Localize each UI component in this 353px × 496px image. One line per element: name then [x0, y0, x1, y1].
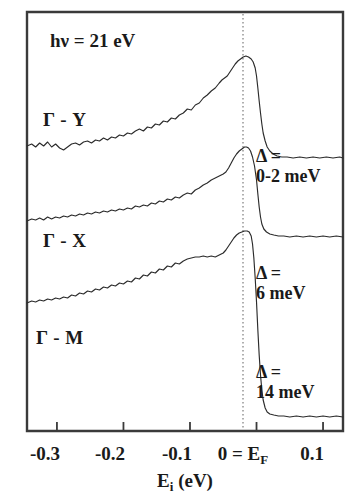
x-axis-title-units: (eV) — [173, 470, 213, 492]
x-tick-label--0.2: -0.2 — [95, 443, 125, 464]
photon-energy-label: hν = 21 eV — [50, 30, 136, 51]
x-axis-title-main: E — [157, 470, 170, 491]
gap-symbol-line-1: Δ = — [256, 362, 281, 382]
plot-frame — [27, 12, 343, 431]
x-axis-title: Ei (eV) — [157, 470, 213, 494]
fermi-tick-subscript: F — [260, 452, 268, 467]
gap-value-line-2: 14 meV — [256, 382, 314, 402]
x-tick-label-0.1: 0.1 — [300, 443, 324, 464]
curve-label-gamma-x: Γ - X — [43, 230, 86, 251]
x-tick-label--0.1: -0.1 — [162, 443, 192, 464]
gap-value-line-2: 0-2 meV — [256, 166, 320, 186]
spectrum-curve-γx — [27, 147, 343, 237]
gap-symbol-line-1: Δ = — [256, 263, 281, 283]
spectrum-curve-γy — [27, 56, 343, 158]
gap-annotation-6-mev: Δ = 6 meV — [256, 263, 305, 303]
curve-label-gamma-m: Γ - M — [36, 327, 84, 348]
x-tick-label-fermi-level: 0 = EF — [218, 443, 269, 467]
curve-label-gamma-y: Γ - Y — [43, 109, 86, 130]
x-axis-ticks — [57, 422, 323, 431]
spectra-figure: hν = 21 eV Γ - Y Γ - X Γ - M Δ = 0-2 meV… — [0, 0, 353, 496]
gap-symbol-line-1: Δ = — [256, 146, 281, 166]
x-tick-label--0.3: -0.3 — [30, 443, 60, 464]
gap-annotation-14-mev: Δ = 14 meV — [256, 362, 314, 402]
figure-canvas: hν = 21 eV Γ - Y Γ - X Γ - M Δ = 0-2 meV… — [0, 0, 353, 496]
fermi-tick-main: 0 = E — [218, 443, 261, 464]
frame-rectangle — [27, 12, 343, 431]
gap-annotation-0-2-mev: Δ = 0-2 meV — [256, 146, 320, 186]
gap-value-line-2: 6 meV — [256, 283, 305, 303]
